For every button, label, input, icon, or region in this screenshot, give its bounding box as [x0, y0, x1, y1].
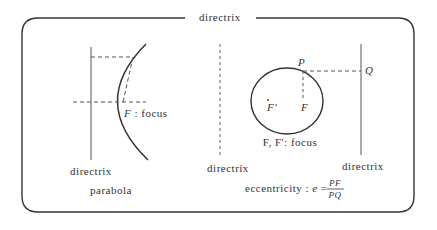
eccentricity-label: eccentricity : e= — [245, 182, 327, 194]
ellipse-focus-caption: F, F': focus — [263, 136, 317, 148]
ellipse-left-directrix-label: directrix — [207, 162, 249, 174]
eccentricity-numerator: PF — [328, 178, 341, 188]
parabola-caption: parabola — [90, 184, 132, 196]
focus-f-prime-label: F' — [266, 101, 277, 113]
frame-title: directrix — [199, 11, 241, 23]
ellipse-curve — [251, 68, 323, 134]
parabola-focus-label: F : focus — [123, 107, 168, 119]
eccentricity-denominator: PQ — [328, 190, 342, 200]
ellipse-right-directrix-label: directrix — [342, 160, 384, 172]
outer-frame — [22, 18, 185, 92]
parabola-directrix-label: directrix — [70, 165, 112, 177]
focus-f-label: F — [300, 101, 308, 113]
outer-frame-left-lower — [22, 18, 414, 212]
point-q-label: Q — [365, 64, 373, 76]
point-p-label: P — [297, 56, 305, 68]
conic-sections-diagram: directrix F : focus directrix parabola d… — [0, 0, 437, 230]
parabola-dashed-pf — [123, 57, 133, 102]
